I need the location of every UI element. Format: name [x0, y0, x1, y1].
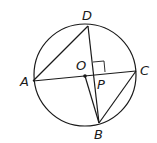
label-P: P — [97, 77, 105, 92]
label-D: D — [82, 8, 92, 23]
right-angle-mark — [93, 61, 105, 72]
center-point-O — [83, 74, 87, 78]
label-C: C — [140, 63, 150, 78]
label-A: A — [19, 74, 29, 89]
label-B: B — [94, 127, 103, 142]
label-O: O — [76, 58, 86, 73]
circle-diagram: A B C D O P — [0, 0, 157, 143]
